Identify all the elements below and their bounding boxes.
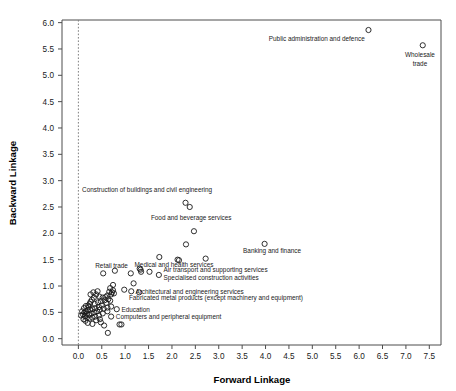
point-label: Education [121, 306, 150, 313]
x-tick-label: 1.5 [143, 352, 155, 361]
data-points-layer [79, 27, 426, 335]
x-tick-label: 3.0 [213, 352, 225, 361]
scatter-point [262, 241, 267, 246]
scatter-point [128, 271, 133, 276]
y-tick-label: 4.0 [43, 124, 55, 133]
scatter-point [187, 204, 192, 209]
point-label: Specialised construction activities [164, 274, 259, 282]
x-tick-label: 7.0 [400, 352, 412, 361]
x-tick-label: 3.5 [236, 352, 248, 361]
y-tick-label: 2.0 [43, 229, 55, 238]
y-tick-label: 5.5 [43, 45, 55, 54]
y-tick-label: 3.0 [43, 177, 55, 186]
x-tick-label: 2.0 [166, 352, 178, 361]
x-tick-label: 0.0 [73, 352, 85, 361]
scatter-point [105, 330, 110, 335]
scatter-point [114, 307, 119, 312]
point-label: Fabricated metal products (except machin… [129, 294, 303, 302]
point-label: Construction of buildings and civil engi… [82, 186, 212, 194]
scatter-point [191, 229, 196, 234]
point-label: Computers and peripheral equipment [116, 313, 222, 321]
scatter-point [157, 254, 162, 259]
scatter-point [101, 271, 106, 276]
scatter-point [420, 43, 425, 48]
scatter-point [183, 200, 188, 205]
x-tick-label: 4.0 [260, 352, 272, 361]
x-tick-label: 2.5 [190, 352, 202, 361]
point-label: trade [413, 60, 428, 67]
point-label: Food and beverage services [151, 214, 232, 222]
point-label: Retail trade [95, 262, 128, 269]
point-label: Public administration and defence [269, 35, 365, 42]
y-tick-label: 3.5 [43, 150, 55, 159]
x-tick-label: 6.5 [377, 352, 389, 361]
point-annotations-layer: Public administration and defenceWholesa… [82, 35, 435, 322]
y-tick-label: 5.0 [43, 71, 55, 80]
point-label: Banking and finance [243, 247, 301, 255]
x-tick-label: 5.5 [330, 352, 342, 361]
scatter-point [109, 314, 114, 319]
y-tick-label: 2.5 [43, 203, 55, 212]
scatter-chart-figure: 0.00.51.01.52.02.53.03.54.04.55.05.56.06… [0, 0, 456, 391]
x-tick-label: 7.5 [424, 352, 436, 361]
y-tick-label: 4.5 [43, 98, 55, 107]
scatter-point [102, 323, 107, 328]
y-axis-title: Backward Linkage [7, 141, 18, 225]
scatter-point [122, 287, 127, 292]
point-label: Wholesale [405, 51, 435, 58]
scatter-point [156, 272, 161, 277]
scatter-point [112, 268, 117, 273]
x-axis-ticks: 0.00.51.01.52.02.53.03.54.04.55.05.56.06… [73, 345, 436, 361]
x-tick-label: 0.5 [96, 352, 108, 361]
x-tick-label: 6.0 [353, 352, 365, 361]
y-tick-label: 1.0 [43, 282, 55, 291]
y-tick-label: 1.5 [43, 256, 55, 265]
x-tick-label: 5.0 [307, 352, 319, 361]
scatter-point [366, 27, 371, 32]
scatter-point [110, 282, 115, 287]
x-tick-label: 4.5 [283, 352, 295, 361]
scatter-point [147, 269, 152, 274]
y-axis-ticks: 0.00.51.01.52.02.53.03.54.04.55.05.56.0 [43, 19, 62, 344]
x-tick-label: 1.0 [119, 352, 131, 361]
scatter-point [129, 289, 134, 294]
scatter-point [131, 281, 136, 286]
x-axis-title: Forward Linkage [214, 374, 291, 385]
y-tick-label: 6.0 [43, 19, 55, 28]
y-tick-label: 0.5 [43, 308, 55, 317]
plot-canvas: 0.00.51.01.52.02.53.03.54.04.55.05.56.06… [0, 0, 456, 391]
scatter-point [183, 242, 188, 247]
y-tick-label: 0.0 [43, 335, 55, 344]
